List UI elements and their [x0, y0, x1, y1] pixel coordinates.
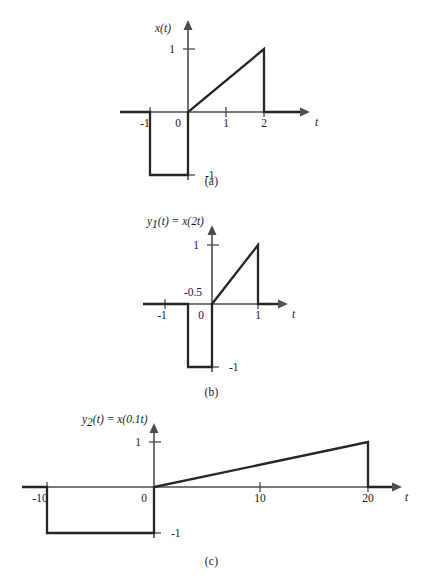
x-axis-arrow-c: [392, 483, 402, 492]
plot-a-xtick-label-1: 0: [175, 117, 181, 129]
y-axis-arrow-a: [184, 20, 193, 30]
plot-a-xtick-label-2: 1: [223, 117, 229, 129]
plot-a-svg: x(t) t -1 0 1 2 1 -1: [0, 0, 423, 190]
plot-c-xtick-label-2: 10: [254, 492, 266, 504]
plot-c-svg: y2(t) = x(0.1t) t -10 0 10 20 1 -1: [0, 405, 423, 578]
plot-c-signal-label-arg: (t) = x(0.1t): [93, 413, 148, 426]
plot-a-xtick-label-0: -1: [140, 117, 150, 129]
panel-a-caption: (a): [0, 175, 423, 187]
y-axis-arrow-b: [208, 225, 217, 235]
plot-a-ytick-label-0: 1: [169, 43, 175, 55]
plot-c-ytick-label-0: 1: [135, 436, 141, 448]
plot-c-xtick-label-3: 20: [362, 492, 374, 504]
plot-b-xtick-label-2: 0: [198, 309, 204, 321]
plot-b-signal-label-arg: (t) = x(2t): [158, 215, 204, 228]
plot-b-ytick-label-0: 1: [193, 239, 199, 251]
panel-c-caption: (c): [0, 555, 423, 567]
plot-panel-b: y1(t) = x(2t) t -1 -0.5 0 1 1 -1 (b): [0, 190, 423, 405]
plot-b-xtick-label-0: -1: [157, 309, 167, 321]
plot-panel-a: x(t) t -1 0 1 2 1 -1 (a): [0, 0, 423, 190]
x-axis-arrow-a: [300, 108, 310, 117]
plot-c-xtick-label-1: 0: [141, 492, 147, 504]
plot-a-xtick-label-3: 2: [261, 117, 267, 129]
plot-panel-c: y2(t) = x(0.1t) t -10 0 10 20 1 -1 (c): [0, 405, 423, 578]
panel-b-caption: (b): [0, 386, 423, 398]
plot-a-signal-label: x(t): [154, 22, 171, 35]
plot-c-xtick-label-0: -10: [32, 492, 48, 504]
plot-b-ytick-label-1: -1: [229, 361, 239, 373]
plot-b-x-axis-label: t: [292, 308, 296, 320]
plot-b-xtick-label-1: -0.5: [184, 286, 202, 298]
plot-b-signal-label: y1(t) = x(2t): [146, 215, 204, 230]
plot-b-svg: y1(t) = x(2t) t -1 -0.5 0 1 1 -1: [0, 190, 423, 405]
plot-c-x-axis-label: t: [405, 491, 409, 503]
plot-c-signal-label: y2(t) = x(0.1t): [81, 413, 148, 428]
x-axis-arrow-b: [278, 300, 288, 309]
figure-page: x(t) t -1 0 1 2 1 -1 (a): [0, 0, 423, 578]
plot-c-ytick-label-1: -1: [171, 527, 181, 539]
y-axis-arrow-c: [150, 423, 159, 433]
plot-b-xtick-label-3: 1: [255, 309, 261, 321]
plot-a-x-axis-label: t: [315, 116, 319, 128]
